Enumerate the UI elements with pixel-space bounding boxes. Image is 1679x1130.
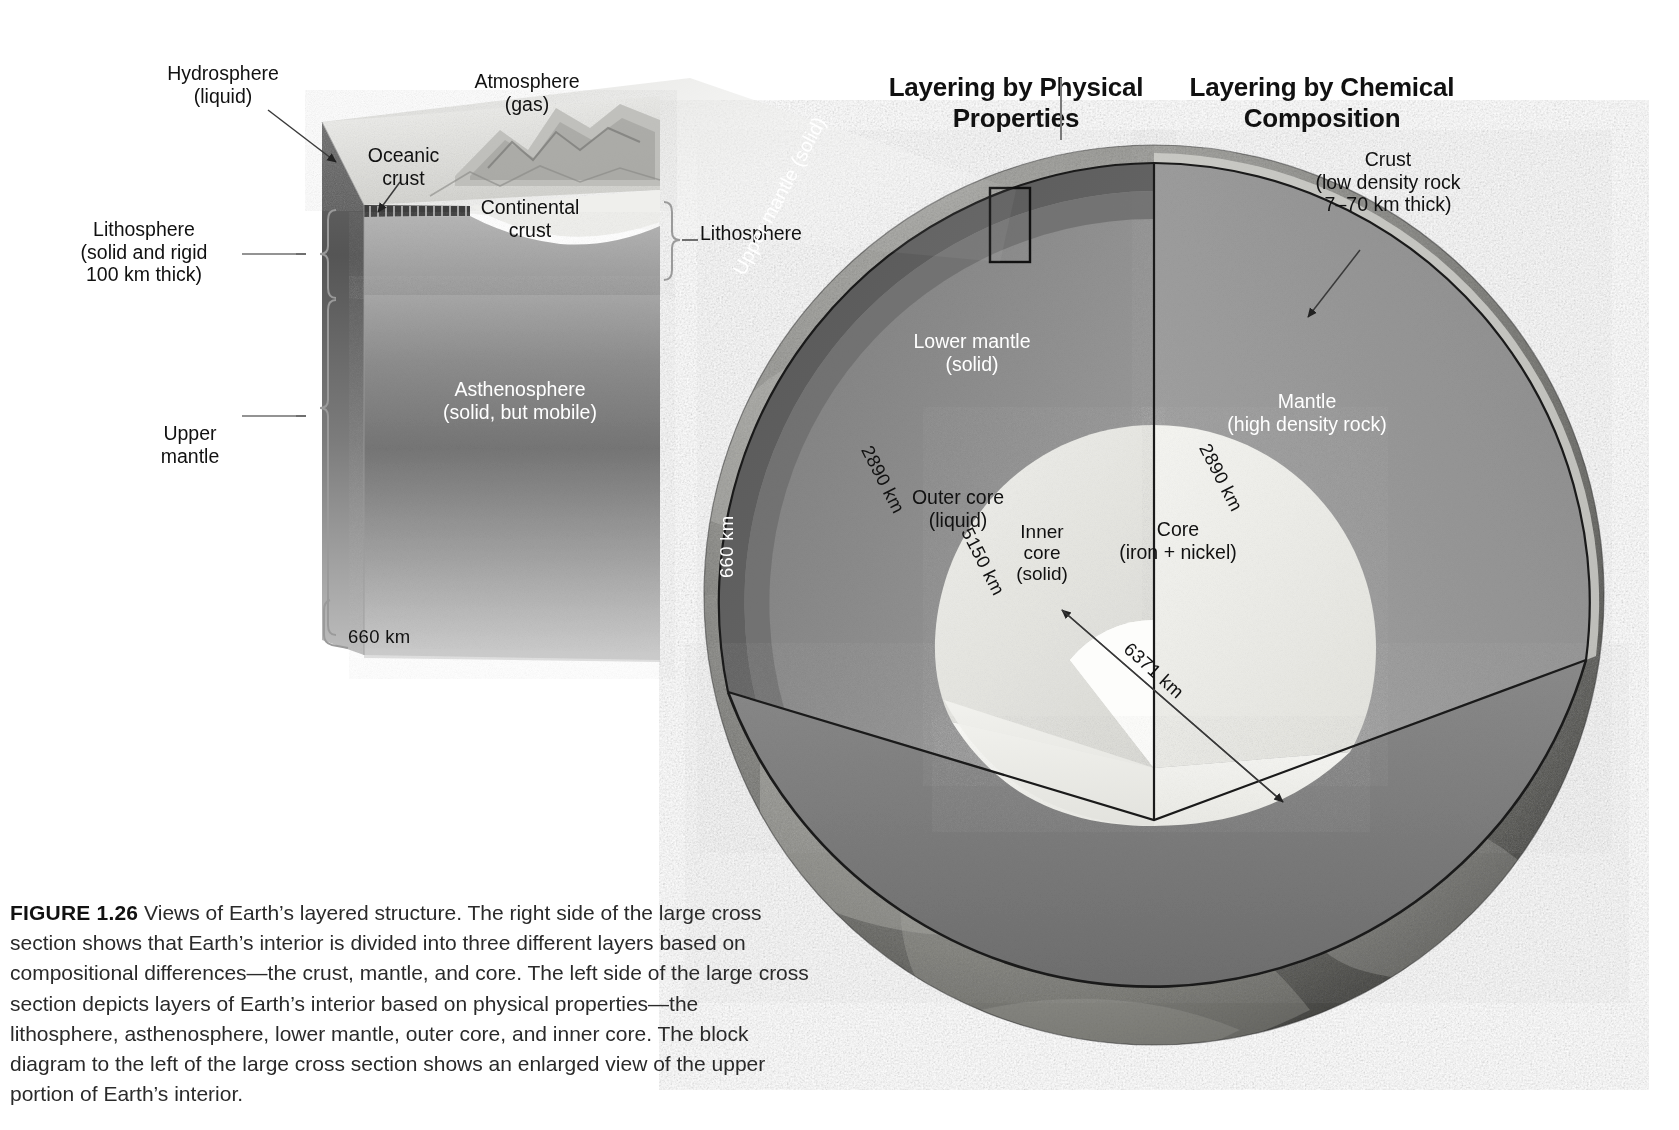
earth-surface [704,145,1604,1045]
label-upper-mantle-block: Upper mantle [130,422,250,467]
core-sector-right [1154,425,1376,768]
label-asthenosphere: Asthenosphere (solid, but mobile) [400,378,640,423]
label-crust: Crust (low density rock 7–70 km thick) [1274,148,1502,216]
leader-lines [268,110,1360,802]
figure-root: Layering by Physical Properties Layering… [0,0,1679,1130]
label-connectors [242,254,296,416]
label-atmosphere: Atmosphere (gas) [432,70,622,115]
label-lower-mantle: Lower mantle (solid) [872,330,1072,375]
figure-caption-text: Views of Earth’s layered structure. The … [10,901,809,1105]
heading-divider [1060,78,1062,140]
label-continental-crust: Continental crust [440,196,620,241]
earth-continents [710,300,1570,1070]
figure-number: FIGURE 1.26 [10,901,138,924]
earth-globe [704,145,1604,1070]
label-lithosphere-right: Lithosphere [700,222,880,245]
label-upper-mantle-globe: Upper mantle (solid) [728,113,830,279]
cut-floor-outer-core [944,700,1154,826]
label-hydrosphere: Hydrosphere (liquid) [128,62,318,107]
heading-chemical-composition: Layering by Chemical Composition [1112,72,1532,133]
block-side-face [322,122,364,655]
label-6371km: 6371 km [1120,638,1189,703]
cut-outlines [719,163,1590,987]
outer-core-sector-left [935,425,1154,768]
label-core: Core (iron + nickel) [1068,518,1288,563]
label-lithosphere-left: Lithosphere (solid and rigid 100 km thic… [40,218,248,286]
label-mantle: Mantle (high density rock) [1192,390,1422,435]
cut-floor-core [952,722,1350,826]
cut-floor-mantle [728,660,1586,987]
label-oceanic-crust: Oceanic crust [336,144,471,189]
asthenosphere-body [364,295,660,660]
inner-core-left [1070,620,1154,768]
label-660km-block: 660 km [348,626,410,647]
outer-core-left [941,430,1154,763]
label-2890km-right: 2890 km [1195,440,1247,515]
brackets [296,202,698,648]
crust-zoom-callout-box [990,188,1030,262]
upper-mantle-band-2 [744,191,1154,708]
label-660km-globe: 660 km [716,516,737,578]
figure-caption: FIGURE 1.26 Views of Earth’s layered str… [10,898,810,1110]
